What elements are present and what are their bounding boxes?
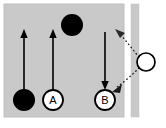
black-ball-bottom-left <box>13 89 35 111</box>
open-ball-right <box>137 53 155 71</box>
ball-a: A <box>43 90 63 110</box>
black-ball-top <box>61 14 83 36</box>
diagram-canvas: A B <box>0 0 166 128</box>
physics-diagram-figure: A B <box>0 0 166 128</box>
ball-a-label: A <box>49 94 57 106</box>
ball-b-label: B <box>101 94 108 106</box>
ball-b: B <box>95 90 115 110</box>
